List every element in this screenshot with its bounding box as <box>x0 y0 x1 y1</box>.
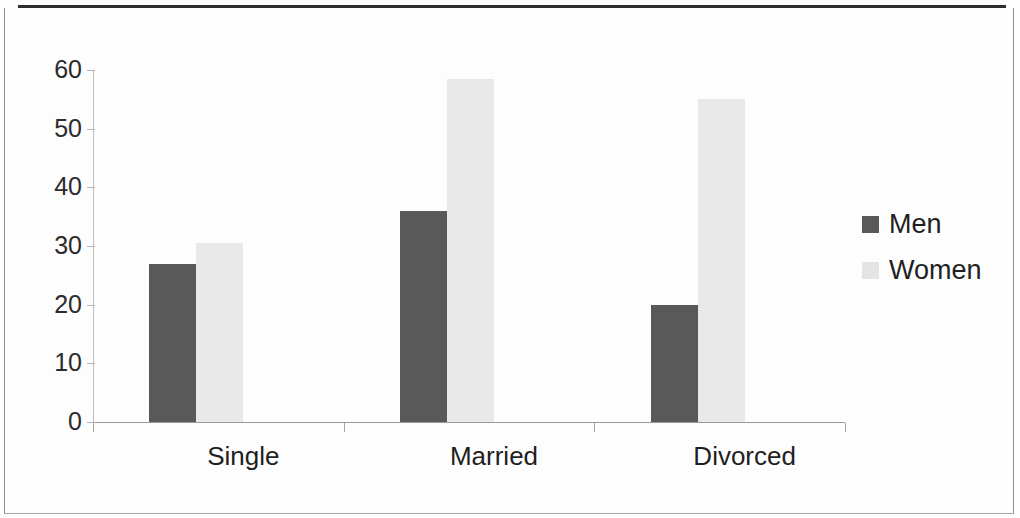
legend-item-men: Men <box>862 208 1002 240</box>
x-axis-label-single: Single <box>143 443 343 469</box>
x-axis-category-tick <box>344 423 345 432</box>
x-axis-category-tick <box>845 423 846 432</box>
bar-single-women <box>196 243 243 422</box>
chart-legend: MenWomen <box>862 208 1002 300</box>
legend-label-men: Men <box>889 211 942 238</box>
x-axis-label-divorced: Divorced <box>645 443 845 469</box>
y-axis-tick-label: 10 <box>36 350 82 375</box>
x-axis-category-tick <box>594 423 595 432</box>
y-axis-tick-label: 0 <box>36 409 82 434</box>
y-axis-tick-label: 40 <box>36 174 82 199</box>
bar-divorced-women <box>698 99 745 422</box>
y-axis-tick-label: 50 <box>36 116 82 141</box>
y-axis-tick-label: 20 <box>36 292 82 317</box>
bar-divorced-men <box>651 305 698 422</box>
bar-married-women <box>447 79 494 422</box>
legend-label-women: Women <box>889 257 982 284</box>
grouped-bar-chart: 0102030405060 SingleMarriedDivorced MenW… <box>0 0 1020 518</box>
legend-item-women: Women <box>862 254 1002 286</box>
x-axis-label-married: Married <box>394 443 594 469</box>
legend-swatch-women-icon <box>862 262 879 279</box>
x-axis-category-tick <box>93 423 94 432</box>
bar-single-men <box>149 264 196 422</box>
x-axis-line <box>93 422 845 423</box>
scanned-page: 0102030405060 SingleMarriedDivorced MenW… <box>0 0 1020 518</box>
legend-swatch-men-icon <box>862 216 879 233</box>
y-axis-tick-label: 30 <box>36 233 82 258</box>
y-axis-tick-label: 60 <box>36 57 82 82</box>
bars-layer <box>93 70 845 422</box>
bar-married-men <box>400 211 447 422</box>
